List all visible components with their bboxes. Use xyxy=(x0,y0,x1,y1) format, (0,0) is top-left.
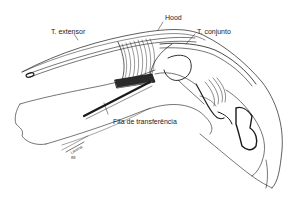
label-transfer-band: Fita de transferência xyxy=(113,118,177,125)
extensor-mechanism-diagram: T. extensor Hood T. conjunto Fita de tra… xyxy=(0,0,289,197)
finger-anatomy-drawing xyxy=(0,0,289,197)
intrinsic-band xyxy=(115,74,155,88)
leader-hood xyxy=(158,22,163,30)
pip-joint-fibers xyxy=(200,78,226,106)
distal-phalanx-outline xyxy=(226,90,265,176)
label-conjoined-tendon: T. conjunto xyxy=(197,28,231,35)
leader-conjunto xyxy=(186,34,195,44)
label-extensor-tendon: T. extensor xyxy=(51,28,85,35)
hood-fibers xyxy=(122,39,154,78)
proximal-palmar-outline xyxy=(20,70,155,104)
middle-phalanx-head xyxy=(164,55,191,80)
proximal-bone-end xyxy=(15,104,46,145)
fingertip-outline xyxy=(200,134,272,188)
signature-year: 88 xyxy=(71,156,75,160)
label-hood: Hood xyxy=(165,14,182,21)
tendon-cut-end xyxy=(26,72,35,78)
conjoined-tendon xyxy=(160,43,256,84)
nail-edge xyxy=(266,160,268,188)
